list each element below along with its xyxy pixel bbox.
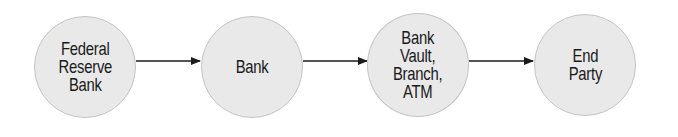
node-label: End Party xyxy=(568,47,601,83)
node-bank-vault-branch-atm: Bank Vault, Branch, ATM xyxy=(367,13,469,117)
node-label: Bank xyxy=(236,58,269,76)
node-label: Bank Vault, Branch, ATM xyxy=(393,29,442,101)
node-end-party: End Party xyxy=(534,14,636,116)
flow-diagram: Federal Reserve Bank Bank Bank Vault, Br… xyxy=(0,0,678,137)
node-label: Federal Reserve Bank xyxy=(58,40,112,94)
node-bank: Bank xyxy=(201,16,303,118)
node-federal-reserve-bank: Federal Reserve Bank xyxy=(34,16,136,118)
